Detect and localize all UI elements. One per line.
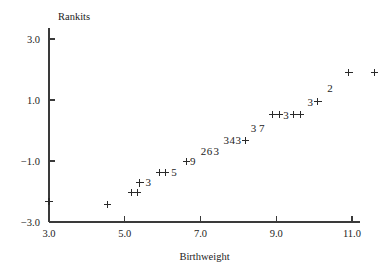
data-point-marker — [269, 111, 276, 118]
x-tick-label: 9.0 — [270, 228, 283, 239]
data-point-count-label: 3 — [283, 109, 289, 121]
y-tick-label: 3.0 — [27, 34, 40, 45]
data-point-count-label: 2 — [201, 145, 207, 157]
data-point-count-label: 7 — [259, 122, 265, 134]
data-point-marker — [297, 111, 304, 118]
data-point-marker — [45, 198, 52, 205]
y-tick-label: −1.0 — [21, 156, 40, 167]
chart-figure: 3.01.0−1.0−3.0 3.05.07.09.011.0 35926334… — [0, 0, 378, 275]
y-axis-ticks: 3.01.0−1.0−3.0 — [21, 34, 55, 228]
x-tick-label: 7.0 — [194, 228, 207, 239]
y-tick-label: 1.0 — [27, 95, 40, 106]
data-point-marker — [136, 179, 143, 186]
data-point-marker — [345, 69, 352, 76]
scatter-plot: 3.01.0−1.0−3.0 3.05.07.09.011.0 35926334… — [0, 0, 378, 275]
data-point-marker — [134, 189, 141, 196]
x-axis-title: Birthweight — [179, 251, 229, 262]
y-axis-title: Rankits — [58, 11, 90, 22]
data-point-count-label: 2 — [327, 82, 333, 94]
axes — [49, 28, 360, 222]
x-tick-label: 3.0 — [42, 228, 55, 239]
data-point-marker — [162, 169, 169, 176]
data-point-marker — [290, 111, 297, 118]
data-point-count-label: 3 — [308, 96, 314, 108]
data-point-count-label: 6 — [207, 145, 213, 157]
data-point-marker — [276, 111, 283, 118]
data-point-count-label: 3 — [251, 122, 257, 134]
x-axis-ticks: 3.05.07.09.011.0 — [42, 216, 361, 239]
data-point-marker — [104, 201, 111, 208]
data-point-marker — [314, 98, 321, 105]
data-point-marker — [371, 69, 378, 76]
data-point-count-label: 3 — [214, 145, 220, 157]
x-tick-label: 11.0 — [343, 228, 361, 239]
data-point-marker — [242, 137, 249, 144]
data-point-count-label: 9 — [190, 155, 196, 167]
data-point-marker — [183, 158, 190, 165]
data-point-count-label: 3 — [145, 176, 151, 188]
data-point-count-label: 5 — [171, 166, 177, 178]
x-tick-label: 5.0 — [118, 228, 131, 239]
data-point-count-label: 3 — [236, 134, 242, 146]
y-tick-label: −3.0 — [21, 217, 40, 228]
data-points: 35926334337332 — [45, 69, 378, 208]
